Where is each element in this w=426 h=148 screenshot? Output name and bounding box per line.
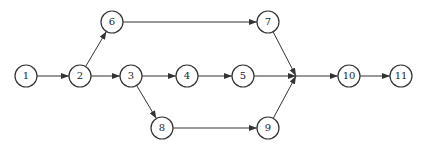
node-4-label: 4 <box>175 68 199 84</box>
node-3-label: 3 <box>119 68 143 84</box>
node-2-label: 2 <box>68 68 92 84</box>
edge-3-to-8 <box>137 85 157 118</box>
node-6-label: 6 <box>100 14 124 30</box>
edge-2-to-6 <box>86 31 107 66</box>
edge-7-to-junction <box>273 32 296 76</box>
node-9-label: 9 <box>256 120 280 136</box>
node-11-label: 11 <box>389 68 413 84</box>
node-10-label: 10 <box>337 68 361 84</box>
edge-9-to-junction <box>273 76 296 118</box>
diagram-edges <box>0 0 426 148</box>
network-diagram: 1234567891011 <box>0 0 426 148</box>
node-7-label: 7 <box>256 14 280 30</box>
node-5-label: 5 <box>231 68 255 84</box>
node-8-label: 8 <box>150 120 174 136</box>
node-1-label: 1 <box>14 68 38 84</box>
